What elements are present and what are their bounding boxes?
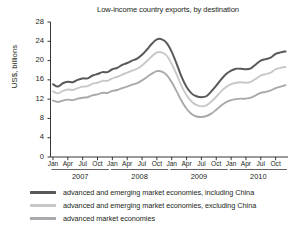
legend-label: advanced and emerging market economies, …: [63, 188, 254, 197]
legend-color-swatch: [30, 191, 56, 194]
legend-label: advanced market economies: [63, 214, 155, 223]
chart-legend: advanced and emerging market economies, …: [30, 186, 290, 225]
legend-label: advanced and emerging market economies, …: [63, 201, 256, 210]
chart-figure: Low-income country exports, by destinati…: [0, 0, 293, 228]
legend-item[interactable]: advanced market economies: [30, 212, 290, 225]
legend-item[interactable]: advanced and emerging market economies, …: [30, 199, 290, 212]
legend-color-swatch: [30, 204, 56, 207]
legend-color-swatch: [30, 217, 56, 220]
legend-item[interactable]: advanced and emerging market economies, …: [30, 186, 290, 199]
series-line: [53, 39, 286, 97]
